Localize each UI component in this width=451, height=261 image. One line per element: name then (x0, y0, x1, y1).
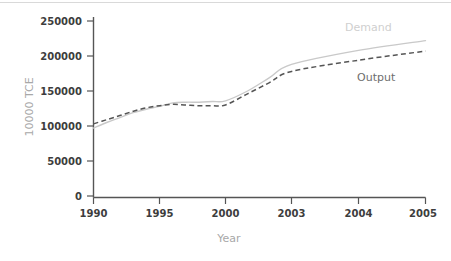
series-label-demand: Demand (345, 21, 392, 34)
x-tick-label-2005: 2005 (409, 208, 437, 219)
chart-container: 250000 200000 150000 100000 50000 0 1990… (0, 0, 451, 261)
x-tick-label-2003: 2003 (278, 208, 306, 219)
y-tick-label-0: 0 (75, 191, 82, 202)
x-tick-label-2000: 2000 (212, 208, 240, 219)
y-axis-title: 10000 TCE (23, 77, 36, 136)
series-line-demand (94, 41, 426, 129)
y-tick-label-250000: 250000 (40, 16, 82, 27)
x-tick-label-1990: 1990 (80, 208, 108, 219)
y-tick-label-100000: 100000 (40, 121, 82, 132)
series-line-output (94, 51, 426, 124)
x-axis-title: Year (216, 232, 241, 245)
y-tick-label-50000: 50000 (47, 156, 82, 167)
y-tick-label-200000: 200000 (40, 51, 82, 62)
x-tick-label-1995: 1995 (146, 208, 174, 219)
x-tick-label-2004: 2004 (345, 208, 373, 219)
line-chart-svg: 250000 200000 150000 100000 50000 0 1990… (0, 0, 451, 261)
series-label-output: Output (357, 71, 396, 84)
y-tick-label-150000: 150000 (40, 86, 82, 97)
